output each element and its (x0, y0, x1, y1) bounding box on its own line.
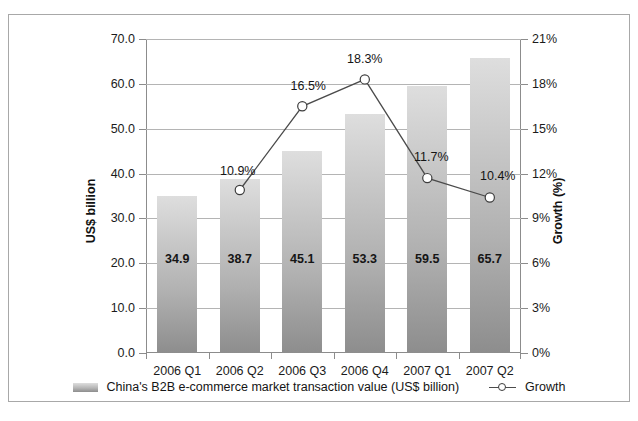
y-axis-tick-label-right: 21% (532, 32, 557, 46)
legend-bar-swatch-icon (73, 383, 98, 392)
growth-value-label: 10.9% (220, 164, 255, 178)
y-axis-title-left: US$ billion (84, 179, 98, 244)
chart-legend: China's B2B e-commerce market transactio… (9, 375, 629, 399)
y-axis-tick-label-right: 15% (532, 122, 557, 136)
bar-value-label: 59.5 (415, 252, 439, 266)
y-axis-tick-left (139, 353, 146, 354)
y-axis-tick-label-right: 18% (532, 77, 557, 91)
y-axis-tick-right (521, 218, 528, 219)
gridline (146, 218, 521, 219)
y-axis-tick-label-left: 30.0 (111, 211, 135, 225)
x-axis-tick (396, 353, 397, 359)
legend-item-line[interactable]: Growth (489, 380, 565, 394)
y-axis-tick-left (139, 129, 146, 130)
y-axis-tick-label-right: 3% (532, 301, 550, 315)
growth-value-label: 11.7% (414, 150, 449, 164)
y-axis-tick-left (139, 218, 146, 219)
y-axis-tick-left (139, 39, 146, 40)
legend-line-marker-icon (489, 382, 516, 393)
bar (407, 86, 447, 353)
x-axis-tick (209, 353, 210, 359)
y-axis-tick-label-left: 50.0 (111, 122, 135, 136)
x-axis-tick (334, 353, 335, 359)
y-axis-tick-right (521, 308, 528, 309)
y-axis-tick-label-left: 10.0 (111, 301, 135, 315)
bar (470, 58, 510, 353)
y-axis-tick-label-right: 12% (532, 167, 557, 181)
y-axis-tick-label-left: 40.0 (111, 167, 135, 181)
left-axis-line (146, 39, 147, 353)
bar-value-label: 53.3 (353, 252, 377, 266)
gridline (146, 174, 521, 175)
y-axis-tick-left (139, 84, 146, 85)
y-axis-tick-left (139, 174, 146, 175)
growth-value-label: 10.4% (480, 169, 515, 183)
y-axis-tick-label-left: 20.0 (111, 256, 135, 270)
y-axis-tick-left (139, 263, 146, 264)
y-axis-tick-label-left: 70.0 (111, 32, 135, 46)
legend-bar-label: China's B2B e-commerce market transactio… (107, 380, 460, 394)
y-axis-tick-label-right: 0% (532, 346, 550, 360)
bar-value-label: 45.1 (290, 252, 314, 266)
plot-area: 0.010.020.030.040.050.060.070.0 0%3%6%9%… (146, 39, 521, 353)
y-axis-tick-left (139, 308, 146, 309)
legend-line-label: Growth (525, 380, 565, 394)
growth-line-series (146, 39, 521, 353)
growth-marker (360, 75, 369, 84)
x-axis-tick (459, 353, 460, 359)
bar (345, 114, 385, 353)
y-axis-tick-label-right: 9% (532, 211, 550, 225)
y-axis-tick-right (521, 353, 528, 354)
legend-item-bar[interactable]: China's B2B e-commerce market transactio… (73, 380, 460, 394)
growth-value-label: 16.5% (291, 79, 326, 93)
growth-value-label: 18.3% (347, 52, 382, 66)
y-axis-tick-label-left: 60.0 (111, 77, 135, 91)
gridline (146, 84, 521, 85)
x-axis-tick (271, 353, 272, 359)
y-axis-tick-right (521, 129, 528, 130)
y-axis-title-right: Growth (%) (551, 178, 565, 245)
x-axis-tick (146, 353, 147, 359)
y-axis-tick-label-right: 6% (532, 256, 550, 270)
bar-value-label: 65.7 (478, 252, 502, 266)
bar (157, 196, 197, 353)
bar-value-label: 38.7 (228, 252, 252, 266)
chart-figure: US$ billion Growth (%) 0.010.020.030.040… (8, 14, 630, 402)
gridline (146, 39, 521, 40)
y-axis-tick-right (521, 263, 528, 264)
gridline (146, 129, 521, 130)
y-axis-tick-right (521, 174, 528, 175)
bar (220, 179, 260, 353)
x-axis-tick (520, 353, 521, 359)
bar-value-label: 34.9 (165, 252, 189, 266)
y-axis-tick-label-left: 0.0 (118, 346, 135, 360)
right-axis-line (520, 39, 521, 353)
gridline (146, 308, 521, 309)
gridline (146, 263, 521, 264)
y-axis-tick-right (521, 84, 528, 85)
growth-marker (298, 102, 307, 111)
y-axis-tick-right (521, 39, 528, 40)
